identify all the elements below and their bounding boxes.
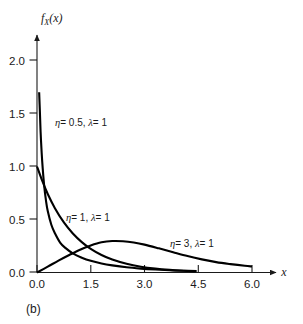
annotation-eta-1: η= 1, λ= 1 — [66, 212, 110, 223]
y-tick-label-2p0: 2.0 — [9, 55, 25, 67]
x-axis-tick-labels: 0.0 1.5 3.0 4.5 6.0 — [29, 278, 260, 290]
x-tick-label-6p0: 6.0 — [244, 278, 260, 290]
weibull-pdf-figure: 2.0 1.5 1.0 0.5 0.0 0.0 1.5 3.0 4.5 6.0 … — [0, 0, 303, 324]
y-axis-title-arg: (x) — [49, 11, 62, 25]
annotation-eta-1-rest2: = 1 — [96, 212, 111, 223]
annotation-eta-0p5: η= 0.5, λ= 1 — [55, 117, 107, 128]
annotation-eta-1-rest: = 1, — [71, 212, 91, 223]
y-axis-ticks — [30, 60, 38, 272]
x-tick-label-4p5: 4.5 — [190, 278, 206, 290]
chart-canvas: 2.0 1.5 1.0 0.5 0.0 0.0 1.5 3.0 4.5 6.0 … — [0, 0, 303, 324]
y-tick-label-0p0: 0.0 — [9, 267, 25, 279]
y-axis-title: fX(x) — [41, 11, 63, 27]
y-tick-label-1p0: 1.0 — [9, 161, 25, 173]
annotation-eta-0p5-rest2: = 1 — [93, 117, 108, 128]
curve-eta-1 — [37, 167, 196, 272]
y-axis-tick-labels: 2.0 1.5 1.0 0.5 0.0 — [9, 55, 25, 279]
annotation-eta-0p5-rest: = 0.5, — [60, 117, 88, 128]
y-tick-label-1p5: 1.5 — [9, 108, 25, 120]
annotation-eta-3-rest: = 3, — [175, 238, 195, 249]
curve-annotations: η= 0.5, λ= 1 η= 1, λ= 1 η= 3, λ= 1 — [55, 117, 214, 249]
x-tick-label-0p0: 0.0 — [29, 278, 45, 290]
annotation-eta-3-rest2: = 1 — [200, 238, 215, 249]
y-tick-label-0p5: 0.5 — [9, 214, 25, 226]
annotation-eta-3: η= 3, λ= 1 — [170, 238, 214, 249]
figure-caption: (b) — [26, 302, 41, 316]
x-tick-label-3p0: 3.0 — [137, 278, 153, 290]
x-tick-label-1p5: 1.5 — [83, 278, 99, 290]
axes-group — [37, 35, 276, 273]
x-axis-title: x — [280, 265, 287, 279]
